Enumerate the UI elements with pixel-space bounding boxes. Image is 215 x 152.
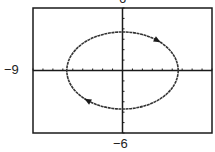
axes <box>33 8 212 133</box>
graph-window <box>0 0 215 152</box>
ymin-label: −6 <box>113 137 128 150</box>
ymax-label: 6 <box>119 0 126 5</box>
xmin-label: −9 <box>4 63 19 76</box>
